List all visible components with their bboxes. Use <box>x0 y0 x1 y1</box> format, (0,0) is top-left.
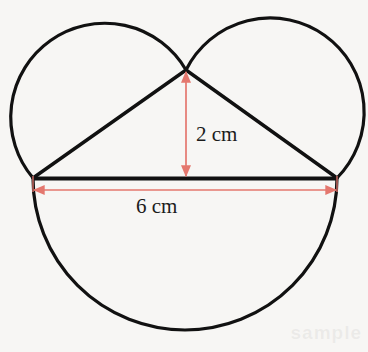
triangle-left-side <box>33 70 186 178</box>
geometry-figure <box>0 0 368 352</box>
base-dimension-label: 6 cm <box>136 196 177 217</box>
left-upper-arc <box>11 23 186 178</box>
height-dimension-label: 2 cm <box>196 124 237 145</box>
right-upper-arc <box>186 18 364 178</box>
diagram-canvas: 2 cm 6 cm sample <box>0 0 368 352</box>
lower-semicircle-arc <box>33 178 337 330</box>
watermark-text: sample <box>291 322 362 344</box>
